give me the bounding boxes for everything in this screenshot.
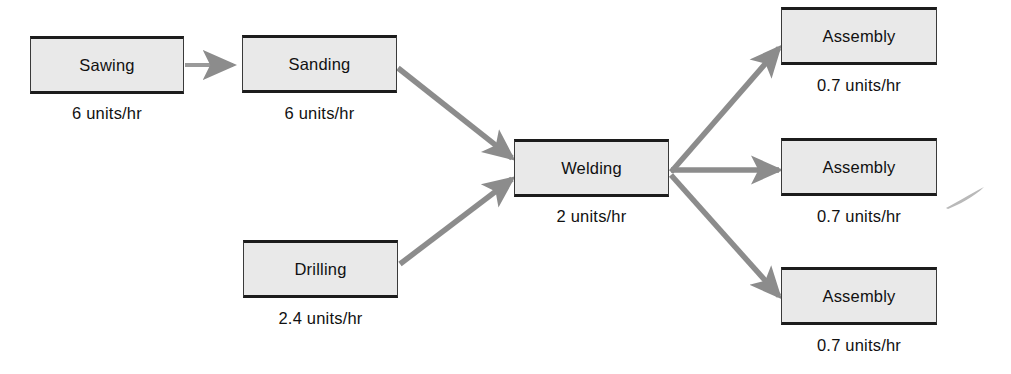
- edge-drilling-to-welding: [400, 179, 512, 264]
- node-assembly-1-label: Assembly: [822, 28, 895, 45]
- node-assembly-2[interactable]: Assembly: [781, 138, 937, 196]
- node-assembly-3[interactable]: Assembly: [781, 267, 937, 325]
- node-drilling-label: Drilling: [294, 261, 346, 278]
- rate-assembly-1: 0.7 units/hr: [781, 77, 937, 94]
- process-flow-diagram: Sawing 6 units/hr Sanding 6 units/hr Dri…: [0, 0, 1011, 374]
- node-sanding[interactable]: Sanding: [242, 35, 397, 93]
- rate-assembly-3: 0.7 units/hr: [781, 337, 937, 354]
- node-assembly-1[interactable]: Assembly: [781, 7, 937, 65]
- edge-welding-to-assembly-1: [671, 48, 779, 172]
- node-sawing-label: Sawing: [79, 57, 134, 74]
- node-assembly-3-label: Assembly: [822, 288, 895, 305]
- rate-welding: 2 units/hr: [514, 208, 669, 225]
- rate-assembly-2: 0.7 units/hr: [781, 208, 937, 225]
- node-drilling[interactable]: Drilling: [243, 240, 398, 298]
- node-welding[interactable]: Welding: [514, 139, 669, 197]
- node-sawing[interactable]: Sawing: [30, 36, 184, 94]
- node-welding-label: Welding: [561, 160, 622, 177]
- node-assembly-2-label: Assembly: [822, 159, 895, 176]
- edge-welding-to-assembly-3: [671, 175, 779, 296]
- rate-sanding: 6 units/hr: [242, 105, 397, 122]
- rate-drilling: 2.4 units/hr: [243, 310, 398, 327]
- node-sanding-label: Sanding: [289, 56, 351, 73]
- edge-sanding-to-welding: [398, 68, 512, 158]
- rate-sawing: 6 units/hr: [30, 105, 184, 122]
